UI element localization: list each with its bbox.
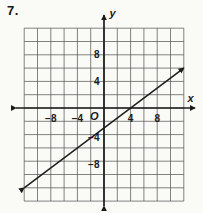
origin-label: O [90, 110, 99, 122]
x-tick-label: 4 [128, 113, 134, 124]
y-tick-label: −8 [88, 159, 100, 170]
y-axis-label: y [108, 7, 116, 19]
y-tick-label: 8 [94, 49, 100, 60]
x-tick-label: 8 [154, 113, 160, 124]
x-axis-label: x [186, 92, 194, 104]
y-tick-label: −4 [88, 132, 100, 143]
x-tick-label: −4 [72, 113, 84, 124]
y-tick-label: 4 [94, 76, 100, 87]
coordinate-grid: xyO−8−44884−4−8 [0, 0, 203, 213]
coordinate-plane-figure: xyO−8−44884−4−8 [0, 0, 203, 213]
x-tick-label: −8 [45, 113, 57, 124]
